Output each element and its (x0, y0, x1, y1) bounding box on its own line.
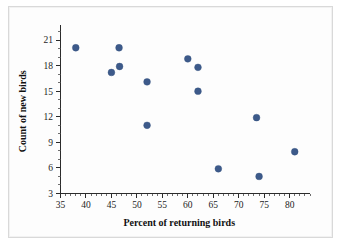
x-tick-label: 75 (259, 200, 269, 210)
data-point (144, 78, 151, 85)
plot-area: 3540455055606570758036912151821Percent o… (0, 0, 341, 247)
data-point (215, 165, 222, 172)
y-tick-label: 21 (44, 35, 54, 45)
y-tick-label: 15 (44, 87, 54, 97)
data-point (144, 122, 151, 129)
plot-svg: 3540455055606570758036912151821Percent o… (0, 0, 341, 247)
data-point (72, 44, 79, 51)
x-tick-label: 60 (183, 200, 193, 210)
scatterplot-figure: 3540455055606570758036912151821Percent o… (0, 0, 341, 247)
data-point (253, 114, 260, 121)
y-tick-label: 3 (48, 189, 53, 199)
x-tick-label: 40 (81, 200, 91, 210)
x-tick-label: 45 (107, 200, 117, 210)
x-axis-title: Percent of returning birds (123, 217, 235, 228)
x-tick-label: 70 (234, 200, 244, 210)
data-point (116, 44, 123, 51)
data-point (256, 173, 263, 180)
y-tick-label: 6 (48, 163, 53, 173)
data-point (291, 148, 298, 155)
x-tick-label: 80 (285, 200, 295, 210)
data-point (195, 64, 202, 71)
data-point (108, 69, 115, 76)
x-tick-label: 50 (132, 200, 142, 210)
y-tick-label: 18 (44, 61, 54, 71)
x-tick-label: 35 (56, 200, 66, 210)
data-point (116, 63, 123, 70)
x-tick-label: 55 (158, 200, 168, 210)
data-point (184, 55, 191, 62)
x-tick-label: 65 (209, 200, 219, 210)
data-point (195, 88, 202, 95)
y-tick-label: 12 (44, 112, 54, 122)
y-axis-title: Count of new birds (17, 70, 28, 152)
y-tick-label: 9 (48, 138, 53, 148)
